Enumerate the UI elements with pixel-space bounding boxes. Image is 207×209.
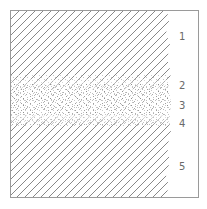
layer-label-4: 4: [179, 119, 185, 129]
layer-pattern-area: [11, 11, 171, 197]
layer-label-3: 3: [179, 101, 185, 111]
layer-4-transition-hatch: [11, 115, 171, 197]
layer-label-2: 2: [179, 81, 185, 91]
layer-label-1: 1: [179, 32, 185, 42]
layer-label-5: 5: [179, 162, 185, 172]
